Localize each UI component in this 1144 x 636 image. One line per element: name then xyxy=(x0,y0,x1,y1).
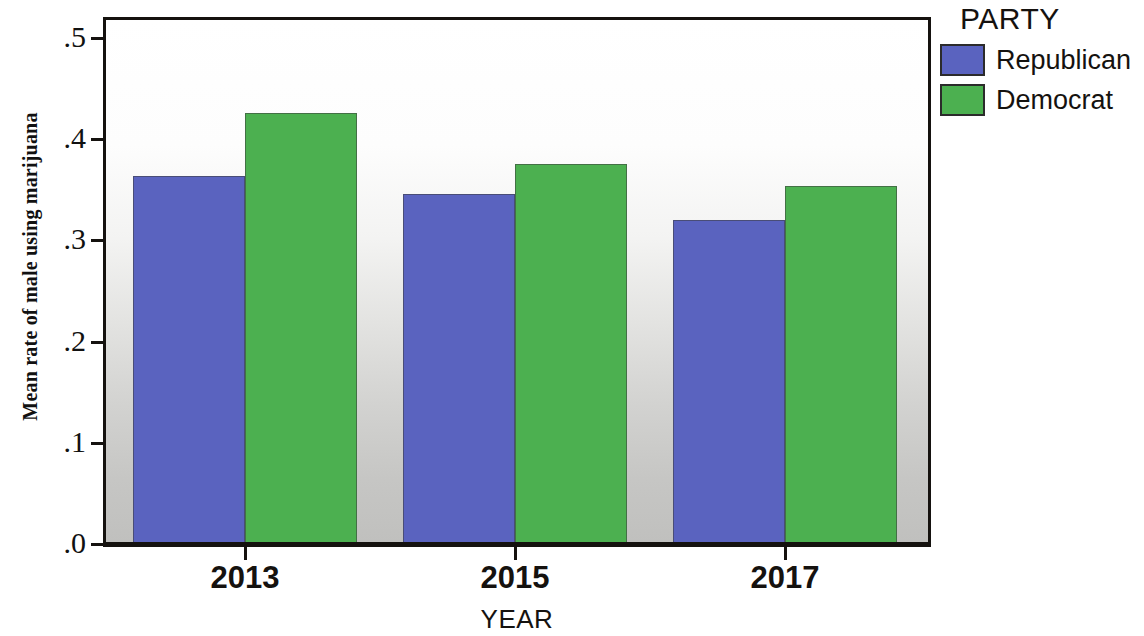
legend: PARTY Republican Democrat xyxy=(940,2,1144,124)
x-tick-label: 2017 xyxy=(715,560,855,596)
y-axis-tick-labels: .5 .4 .3 .2 .1 .0 xyxy=(38,0,86,636)
bar-2015-republican xyxy=(403,194,515,542)
y-tick-label: .1 xyxy=(38,427,86,457)
y-tick-label: .0 xyxy=(38,528,86,558)
legend-item-republican[interactable]: Republican xyxy=(940,44,1144,76)
x-tick-mark xyxy=(784,547,787,560)
bar-2013-democrat xyxy=(245,113,357,542)
bar-2013-republican xyxy=(133,176,245,542)
legend-title: PARTY xyxy=(960,2,1144,36)
legend-swatch-republican xyxy=(940,44,985,76)
y-tick-mark xyxy=(91,341,103,344)
x-axis-line xyxy=(103,542,931,547)
legend-item-democrat[interactable]: Democrat xyxy=(940,84,1144,116)
legend-label-republican: Republican xyxy=(996,45,1131,76)
y-tick-label: .5 xyxy=(38,22,86,52)
legend-label-democrat: Democrat xyxy=(996,85,1113,116)
y-tick-mark xyxy=(91,138,103,141)
y-tick-mark xyxy=(91,442,103,445)
bar-2017-democrat xyxy=(785,186,897,542)
x-tick-mark xyxy=(244,547,247,560)
legend-swatch-democrat xyxy=(940,84,985,116)
bar-2017-republican xyxy=(673,220,785,542)
y-tick-mark xyxy=(91,543,103,546)
x-tick-label: 2013 xyxy=(175,560,315,596)
bar-2015-democrat xyxy=(515,164,627,542)
x-tick-mark xyxy=(514,547,517,560)
plot-area xyxy=(103,17,931,545)
y-tick-label: .3 xyxy=(38,224,86,254)
y-tick-mark xyxy=(91,239,103,242)
y-tick-label: .2 xyxy=(38,326,86,356)
x-tick-label: 2015 xyxy=(445,560,585,596)
chart-page: Mean rate of male using marijuana .5 .4 … xyxy=(0,0,1144,636)
x-axis-title: YEAR xyxy=(103,604,931,635)
y-tick-mark xyxy=(91,37,103,40)
y-tick-label: .4 xyxy=(38,123,86,153)
